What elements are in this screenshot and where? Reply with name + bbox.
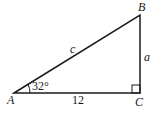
side-label-a: a bbox=[144, 50, 150, 64]
angle-arc-a bbox=[28, 85, 30, 94]
vertex-label-c: C bbox=[135, 95, 144, 109]
side-label-adjacent: 12 bbox=[72, 93, 84, 107]
triangle-diagram: A B C 32° c a 12 bbox=[0, 0, 166, 124]
angle-a-label: 32° bbox=[32, 79, 49, 93]
side-label-c: c bbox=[70, 42, 76, 56]
right-angle-marker bbox=[132, 85, 140, 93]
vertex-label-b: B bbox=[138, 0, 146, 14]
vertex-label-a: A bbox=[6, 93, 15, 107]
